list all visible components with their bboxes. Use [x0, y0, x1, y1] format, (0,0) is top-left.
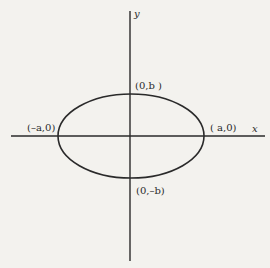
- ellipse-graphic: [0, 0, 270, 268]
- vertex-bottom-label: (0,–b): [136, 186, 165, 196]
- y-axis-label: y: [134, 9, 140, 19]
- vertex-right-label: ( a,0): [210, 123, 236, 133]
- vertex-top-label: (0,b ): [135, 81, 162, 91]
- x-axis-label: x: [252, 124, 258, 134]
- vertex-left-label: (–a,0): [27, 123, 55, 133]
- ellipse-diagram: y x (0,b ) (0,–b) (–a,0) ( a,0): [0, 0, 270, 268]
